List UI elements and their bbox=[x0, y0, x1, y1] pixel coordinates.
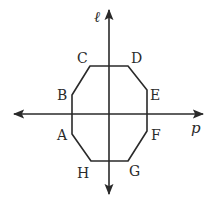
axis-label-l: ℓ bbox=[94, 8, 100, 26]
vertex-label-d: D bbox=[131, 50, 142, 66]
vertex-label-f: F bbox=[151, 127, 161, 143]
vertex-label-b: B bbox=[57, 87, 67, 103]
axis-label-p: p bbox=[191, 119, 201, 137]
vertex-label-a: A bbox=[56, 127, 68, 143]
diagram-canvas: ℓ p C D B E A F H G bbox=[0, 0, 209, 207]
vertex-label-g: G bbox=[129, 163, 140, 179]
vertex-label-h: H bbox=[77, 165, 89, 181]
vertex-label-c: C bbox=[77, 50, 88, 66]
vertex-label-e: E bbox=[150, 87, 160, 103]
